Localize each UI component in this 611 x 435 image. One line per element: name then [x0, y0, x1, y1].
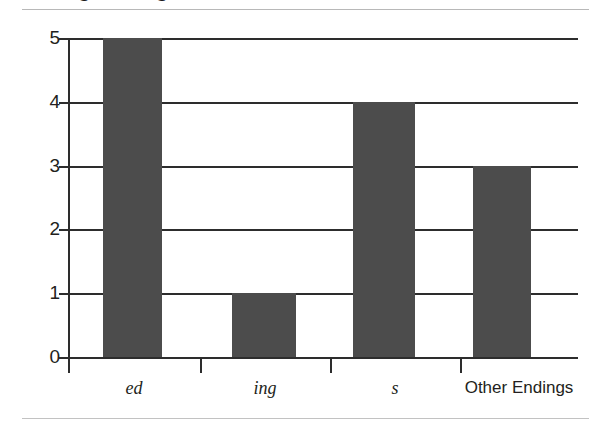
x-tick-mark [330, 357, 332, 373]
bar-s [353, 102, 415, 357]
x-tick-label: ing [200, 378, 330, 400]
x-tick-mark [460, 357, 462, 373]
bar-ed [103, 38, 162, 357]
y-tick-mark [59, 38, 68, 40]
y-tick-mark [59, 293, 68, 295]
y-tick-label: 3 [38, 156, 60, 175]
x-tick-label: Other Endings [460, 378, 578, 398]
y-axis-tick-labels: 012345 [30, 38, 60, 357]
bar-ing [232, 293, 296, 357]
x-tick-mark [200, 357, 202, 373]
y-tick-label: 1 [38, 283, 60, 302]
top-rule [22, 9, 589, 10]
cropped-title: Adding Endings to Base Words [0, 0, 611, 4]
y-tick-label: 4 [38, 92, 60, 111]
x-axis-baseline [68, 357, 578, 359]
bar-other-endings [473, 166, 531, 357]
bottom-rule [22, 418, 589, 419]
y-tick-mark [59, 102, 68, 104]
x-tick-label: s [330, 378, 460, 400]
y-tick-label: 5 [38, 28, 60, 47]
x-tick-mark [68, 357, 70, 373]
chart-figure: Adding Endings to Base Words 012345 edin… [0, 0, 611, 435]
x-axis-labels: edingsOther Endings [68, 378, 578, 406]
x-tick-label: ed [68, 378, 200, 400]
y-tick-mark [59, 357, 68, 359]
y-axis-line [68, 38, 70, 357]
y-tick-label: 0 [38, 347, 60, 366]
y-tick-mark [59, 229, 68, 231]
chart-title-text: Adding Endings to Base Words [18, 0, 334, 2]
plot-area [68, 38, 578, 357]
y-tick-label: 2 [38, 219, 60, 238]
y-tick-mark [59, 166, 68, 168]
